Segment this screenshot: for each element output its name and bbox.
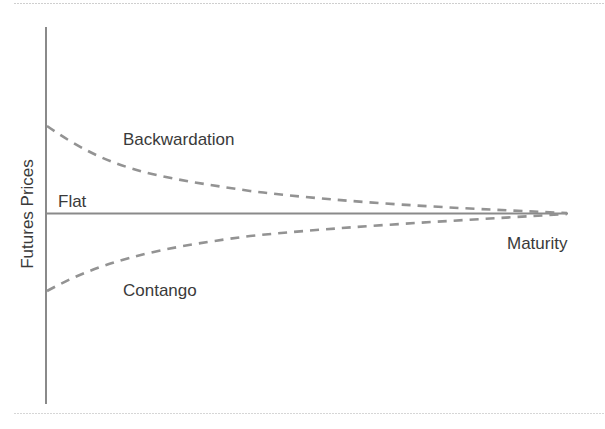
x-axis-label: Maturity bbox=[507, 234, 568, 253]
contango-label: Contango bbox=[123, 281, 197, 300]
futures-term-structure-diagram: Backwardation Flat Contango Maturity Fut… bbox=[0, 0, 605, 429]
contango-curve bbox=[47, 214, 567, 291]
backwardation-label: Backwardation bbox=[123, 130, 235, 149]
y-axis-label: Futures Prices bbox=[18, 159, 37, 269]
flat-label: Flat bbox=[58, 192, 87, 211]
